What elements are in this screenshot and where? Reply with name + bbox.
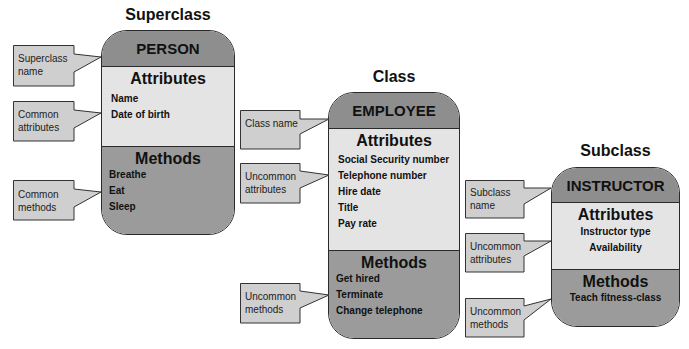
attribute-item: Availability bbox=[552, 240, 679, 256]
method-item: Breathe bbox=[109, 167, 234, 183]
class-name-label: EMPLOYEE bbox=[352, 102, 435, 119]
instructor-methods-section: Methods Teach fitness-class bbox=[552, 270, 679, 326]
employee-class-box: EMPLOYEE Attributes Social Security numb… bbox=[328, 92, 460, 339]
methods-list: Get hired Terminate Change telephone bbox=[336, 271, 459, 319]
callout-text: Uncommon attributes bbox=[245, 170, 300, 196]
methods-list: Teach fitness-class bbox=[552, 290, 679, 306]
attributes-list: Social Security number Telephone number … bbox=[338, 152, 459, 232]
attribute-item: Pay rate bbox=[338, 216, 459, 232]
superclass-heading: Superclass bbox=[101, 6, 235, 24]
methods-title: Methods bbox=[329, 254, 459, 272]
attributes-title: Attributes bbox=[552, 206, 679, 224]
class-name-label: PERSON bbox=[136, 40, 199, 57]
methods-title: Methods bbox=[552, 273, 679, 291]
callout-text: Common methods bbox=[18, 188, 73, 214]
method-item: Teach fitness-class bbox=[552, 290, 679, 306]
attribute-item: Telephone number bbox=[338, 168, 459, 184]
methods-title: Methods bbox=[102, 150, 234, 168]
attribute-item: Social Security number bbox=[338, 152, 459, 168]
method-item: Eat bbox=[109, 183, 234, 199]
callout-text: Common attributes bbox=[18, 108, 73, 134]
attribute-item: Date of birth bbox=[111, 107, 234, 123]
callout-text: Subclass name bbox=[470, 186, 525, 212]
attributes-title: Attributes bbox=[329, 132, 459, 150]
method-item: Change telephone bbox=[336, 303, 459, 319]
attribute-item: Name bbox=[111, 91, 234, 107]
employee-methods-section: Methods Get hired Terminate Change telep… bbox=[329, 251, 459, 338]
callout-text: Class name bbox=[245, 117, 300, 130]
callout-text: Uncommon methods bbox=[245, 290, 300, 316]
callout-text: Superclass name bbox=[18, 52, 73, 78]
attribute-item: Hire date bbox=[338, 184, 459, 200]
person-class-name: PERSON bbox=[102, 31, 234, 67]
methods-list: Breathe Eat Sleep bbox=[109, 167, 234, 215]
attribute-item: Title bbox=[338, 200, 459, 216]
attribute-item: Instructor type bbox=[552, 224, 679, 240]
attributes-list: Name Date of birth bbox=[111, 91, 234, 123]
instructor-class-name: INSTRUCTOR bbox=[552, 168, 679, 203]
subclass-heading: Subclass bbox=[551, 142, 680, 160]
attributes-list: Instructor type Availability bbox=[552, 224, 679, 256]
method-item: Sleep bbox=[109, 199, 234, 215]
callout-text: Uncommon attributes bbox=[470, 240, 525, 266]
person-attributes-section: Attributes Name Date of birth bbox=[102, 67, 234, 147]
method-item: Get hired bbox=[336, 271, 459, 287]
class-heading: Class bbox=[328, 68, 460, 86]
instructor-class-box: INSTRUCTOR Attributes Instructor type Av… bbox=[551, 167, 680, 327]
method-item: Terminate bbox=[336, 287, 459, 303]
attributes-title: Attributes bbox=[102, 70, 234, 88]
instructor-attributes-section: Attributes Instructor type Availability bbox=[552, 203, 679, 270]
employee-class-name: EMPLOYEE bbox=[329, 93, 459, 129]
employee-attributes-section: Attributes Social Security number Teleph… bbox=[329, 129, 459, 251]
person-class-box: PERSON Attributes Name Date of birth Met… bbox=[101, 30, 235, 235]
class-name-label: INSTRUCTOR bbox=[566, 177, 664, 194]
callout-text: Uncommon methods bbox=[470, 305, 525, 331]
person-methods-section: Methods Breathe Eat Sleep bbox=[102, 147, 234, 234]
